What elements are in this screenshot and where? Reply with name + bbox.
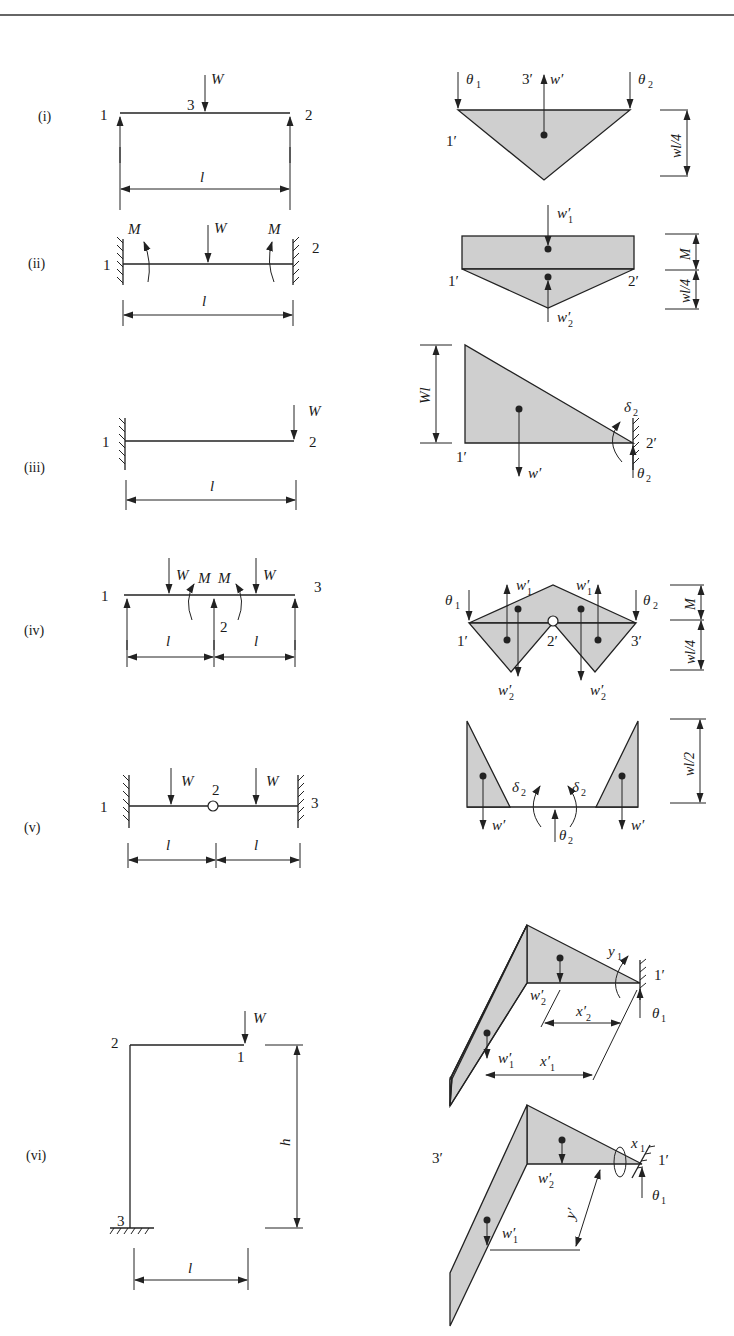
subscript: 1	[513, 1234, 518, 1245]
mechanism-iv: w′ 1 w′ 1 w′ 2 w′ 2 θ 1 θ 2 1′ 2′ 3′ M w…	[445, 577, 704, 702]
subscript: 2	[601, 691, 606, 702]
node-label: 2′	[547, 633, 558, 649]
structure-i: W 1 3 2 l	[100, 71, 313, 210]
case-v: (v) W W 1 2 3 l l	[24, 719, 706, 868]
height-label: h	[277, 1139, 293, 1147]
node-label: 3′	[432, 1150, 443, 1166]
distance-label: x′	[575, 1003, 587, 1019]
subscript: 2	[648, 79, 653, 90]
force-label: w′	[528, 465, 542, 481]
node-label: 1′	[457, 633, 468, 649]
node-label: 2	[309, 434, 317, 450]
case-label: (v)	[24, 820, 41, 836]
dimension-label: M	[683, 597, 698, 611]
node-label: 2′	[628, 273, 639, 289]
distance-label: x′	[539, 1053, 551, 1069]
node-label: 2	[312, 240, 320, 256]
load-label: W	[211, 71, 225, 87]
span-label: l	[210, 478, 214, 494]
node-label: 1	[101, 588, 109, 604]
span-label: l	[254, 837, 258, 853]
rotation-label: x	[630, 1135, 638, 1151]
subscript: 1	[527, 586, 532, 597]
node-label: 3	[311, 795, 319, 811]
distance-dimension	[576, 1170, 600, 1246]
subscript: 1	[476, 79, 481, 90]
load-label: W	[263, 567, 277, 583]
subscript: 1	[509, 1059, 514, 1070]
node-label: 3	[314, 579, 322, 595]
span-label: l	[188, 1260, 192, 1276]
node-label: 2	[305, 107, 313, 123]
shaded-region	[527, 1105, 642, 1164]
node-label: 2′	[646, 435, 657, 451]
rotation-label: θ	[643, 592, 651, 608]
moment-arrow-icon	[236, 584, 242, 620]
case-i: (i) W 1 3 2 l w′ 3′ θ 1 θ 2 1	[38, 71, 688, 210]
subscript: 1	[640, 1143, 645, 1154]
subscript: 1	[568, 214, 573, 225]
case-label: (iv)	[24, 623, 45, 639]
case-vi: (vi) W 2 1 3 h l	[26, 925, 669, 1326]
mechanism-i: w′ 3′ θ 1 θ 2 1′ wl/4	[446, 71, 688, 180]
structure-vi: W 2 1 3 h l	[110, 1010, 303, 1290]
shaded-region	[553, 623, 636, 672]
moment-arrow-icon	[188, 584, 194, 620]
moment-arrow-icon	[269, 242, 274, 282]
span-label: l	[202, 293, 206, 309]
subscript: 2	[586, 1012, 591, 1023]
structure-iv: W W M M 1 2 3 l l	[101, 558, 322, 667]
hinge-icon	[208, 801, 218, 811]
shaded-region	[596, 721, 638, 807]
rotation-label: y	[606, 943, 615, 959]
node-label: 3′	[522, 71, 533, 87]
hinge-icon	[548, 616, 558, 626]
shaded-region	[450, 925, 527, 1106]
dimension-label: M	[678, 247, 693, 261]
twist-label: θ	[652, 1005, 660, 1021]
moment-label: M	[267, 221, 282, 237]
subscript: 2	[549, 1179, 554, 1190]
figure-canvas: (i) W 1 3 2 l w′ 3′ θ 1 θ 2 1	[0, 0, 734, 1336]
node-label: 1′	[448, 273, 459, 289]
node-label: 2	[220, 619, 228, 635]
dimension-label: wl/4	[683, 640, 698, 664]
node-label: 1	[102, 434, 110, 450]
case-label: (iii)	[24, 460, 45, 476]
moment-label: M	[197, 570, 212, 586]
subscript: 1	[617, 951, 622, 962]
subscript: 2	[653, 600, 658, 611]
load-label: W	[176, 567, 190, 583]
node-label: 1′	[456, 449, 467, 465]
case-iv: (iv) W W M M 1 2 3 l l	[24, 558, 704, 702]
twist-label: θ	[652, 1187, 660, 1203]
mechanism-v: w′ w′ δ 2 δ 2 θ 2 wl/2	[467, 719, 706, 846]
shaded-region	[469, 623, 553, 672]
node-label: 3	[187, 97, 195, 113]
mechanism-iii: w′ 1′ 2′ δ 2 θ 2 Wl	[417, 345, 657, 484]
span-label: l	[200, 169, 204, 185]
rotation-label: θ	[445, 592, 453, 608]
moment-label: M	[127, 221, 142, 237]
case-iii: (iii) W 1 2 l w′ 1′ 2′ δ 2	[24, 345, 657, 510]
distance-label: y′	[561, 1206, 580, 1223]
node-label: 1	[237, 1049, 245, 1065]
subscript: 2	[633, 407, 638, 418]
shaded-region	[527, 925, 640, 983]
load-label: W	[308, 403, 322, 419]
deflection-label: δ	[624, 399, 632, 415]
subscript: 2	[568, 835, 573, 846]
force-label: w′	[550, 71, 564, 87]
subscript: 2	[521, 787, 526, 798]
node-label: 1′	[658, 1152, 669, 1168]
deflection-label: δ	[512, 779, 520, 795]
rotation-label: θ	[637, 465, 645, 481]
case-ii: (ii) W M M 1 2 l w′ 1	[28, 205, 699, 329]
dimension-label: wl/4	[669, 134, 684, 158]
moment-label: M	[217, 570, 232, 586]
load-label: W	[214, 220, 228, 236]
subscript: 2	[509, 691, 514, 702]
dimension-label: wl/2	[682, 752, 697, 776]
subscript: 2	[568, 318, 573, 329]
load-label: W	[266, 773, 280, 789]
